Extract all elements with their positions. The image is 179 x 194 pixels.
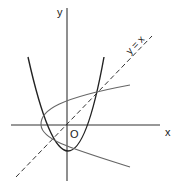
x-axis-label: x xyxy=(165,126,171,138)
diagram-canvas: y x O y = x xyxy=(0,0,179,194)
y-axis-label: y xyxy=(57,6,63,18)
parabola-curve xyxy=(28,57,104,151)
line-label: y = x xyxy=(124,33,147,56)
line-y-equals-x xyxy=(16,36,152,177)
reflected-parabola-curve xyxy=(41,85,130,167)
origin-label: O xyxy=(70,128,79,140)
